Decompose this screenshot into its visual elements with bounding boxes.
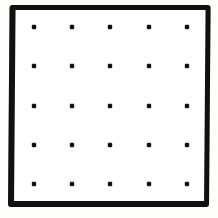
dot-grid-figure: Dot lattice inside square frame bbox=[0, 0, 218, 218]
square-border bbox=[8, 5, 211, 207]
